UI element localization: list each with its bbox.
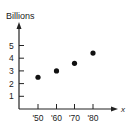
- y-tick-label: 2: [9, 79, 14, 89]
- y-tick-label: 4: [9, 53, 14, 63]
- y-axis-arrow-icon: [17, 22, 22, 29]
- y-tick-label: 1: [9, 91, 14, 101]
- x-tick-label: '80: [87, 113, 98, 123]
- x-tick-label: '60: [51, 113, 62, 123]
- x-ticks: '50'60'70'80: [32, 104, 98, 123]
- scatter-chart: Billions x 12345 '50'60'70'80: [0, 0, 127, 127]
- data-point: [90, 51, 95, 56]
- x-tick-label: '70: [69, 113, 80, 123]
- x-tick-label: '50: [32, 113, 43, 123]
- x-axis-arrow-icon: [111, 107, 118, 112]
- x-axis: [19, 107, 118, 112]
- data-points: [35, 51, 95, 80]
- x-axis-label: x: [120, 105, 126, 114]
- data-point: [35, 75, 40, 80]
- y-axis-label: Billions: [6, 11, 35, 21]
- y-tick-label: 5: [9, 41, 14, 51]
- data-point: [72, 61, 77, 66]
- y-tick-label: 3: [9, 66, 14, 76]
- data-point: [54, 68, 59, 73]
- y-ticks: 12345: [9, 41, 24, 102]
